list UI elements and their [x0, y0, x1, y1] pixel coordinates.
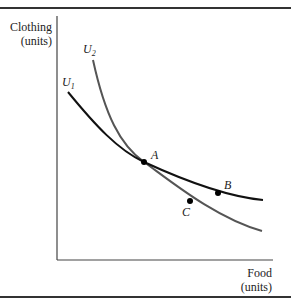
- u2-label: U2: [83, 42, 96, 61]
- point-c: [187, 198, 193, 204]
- point-a: [141, 159, 147, 165]
- y-label-line2: (units): [6, 34, 52, 48]
- label-c: C: [182, 205, 190, 219]
- label-b: B: [224, 178, 231, 192]
- x-label-line1: Food: [220, 266, 272, 280]
- curve-u1: [68, 92, 263, 200]
- label-a: A: [151, 148, 158, 162]
- y-label-line1: Clothing: [6, 20, 52, 34]
- point-b: [215, 190, 221, 196]
- x-axis-label: Food (units): [220, 266, 272, 294]
- u1-label: U1: [62, 75, 75, 94]
- x-label-line2: (units): [220, 280, 272, 294]
- y-axis-label: Clothing (units): [6, 20, 52, 48]
